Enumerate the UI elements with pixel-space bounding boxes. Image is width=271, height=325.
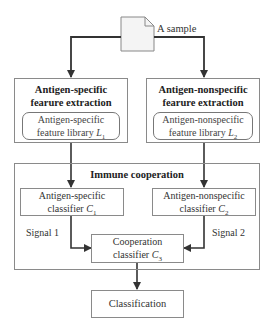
antigen-nonspecific-extraction-box: Antigen-nonspecific fearure extraction A… [146, 78, 260, 143]
feature-library-l1: Antigen-specific feature library L1 [22, 112, 120, 140]
right-title-line2: fearure extraction [147, 96, 259, 109]
left-title-line1: Antigen-specific [15, 83, 127, 96]
library-l2-line2: feature library L2 [154, 127, 252, 144]
classification-box: Classification [91, 290, 184, 318]
classifier-c2: Antigen-nonspecific classifier C2 [152, 188, 256, 216]
right-title-line1: Antigen-nonspecific [147, 83, 259, 96]
library-l2-line1: Antigen-nonspecific [154, 114, 252, 127]
feature-library-l2: Antigen-nonspecific feature library L2 [153, 112, 253, 140]
classifier-c1: Antigen-specific classifier C1 [20, 188, 124, 216]
library-l1-line1: Antigen-specific [23, 114, 119, 127]
cooperation-classifier-c3: Cooperation classifier C3 [91, 234, 184, 263]
document-icon [121, 17, 154, 51]
signal-2-label: Signal 2 [212, 226, 245, 239]
antigen-specific-extraction-box: Antigen-specific fearure extraction Anti… [14, 78, 128, 143]
immune-cooperation-title: Immune cooperation [15, 168, 259, 181]
sample-label: A sample [157, 22, 196, 35]
library-l1-line2: feature library L1 [23, 127, 119, 144]
signal-1-label: Signal 1 [26, 226, 59, 239]
left-title-line2: fearure extraction [15, 96, 127, 109]
classification-label: Classification [109, 298, 167, 309]
